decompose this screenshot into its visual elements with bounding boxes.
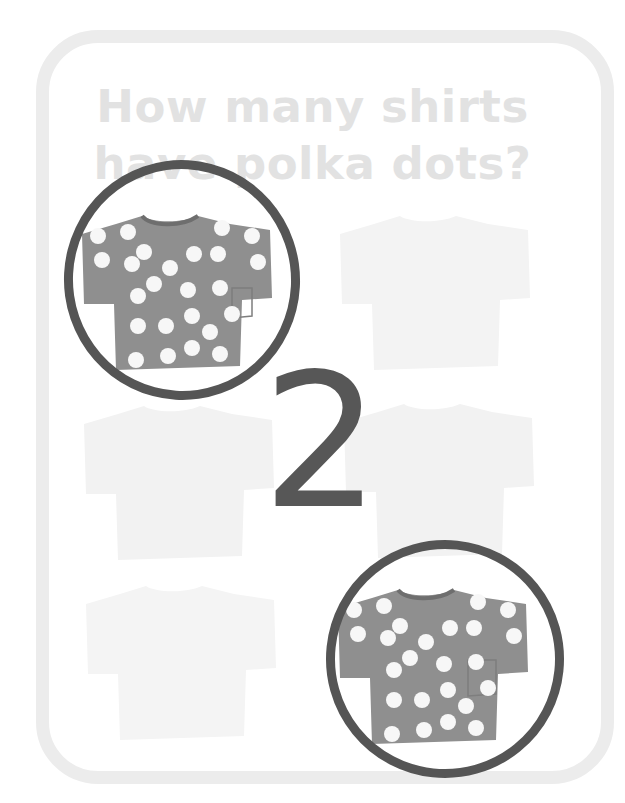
plain-shirt-middle-left (82, 398, 278, 564)
plain-shirt-bottom-left (84, 578, 280, 744)
question-line-1: How many shirts (0, 78, 625, 135)
question-heading: How many shirts have polka dots? (0, 78, 625, 192)
question-line-2: have polka dots? (0, 135, 625, 192)
answer-number: 2 (262, 352, 367, 532)
